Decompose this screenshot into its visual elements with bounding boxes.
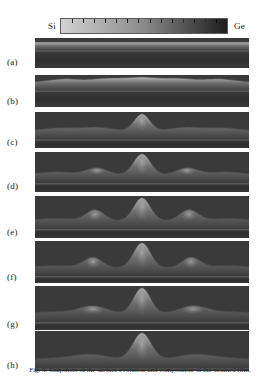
island-core: [179, 168, 195, 175]
film-region: [35, 42, 249, 51]
panel-h: [35, 331, 249, 371]
panel-graphic: [35, 75, 249, 107]
colorbar-track: [60, 18, 228, 34]
panel-graphic: [35, 112, 249, 148]
panel-label-a: (a): [7, 57, 37, 67]
panel-g: [35, 286, 249, 330]
substrate-region: [35, 230, 249, 238]
island-core: [136, 154, 148, 176]
substrate-region: [35, 51, 249, 68]
island-core: [136, 199, 148, 223]
composition-colorbar: Si Ge: [0, 8, 279, 32]
panel-e: [35, 196, 249, 238]
panel-graphic: [35, 241, 249, 283]
island-core: [88, 210, 102, 221]
island-core: [89, 168, 105, 175]
colorbar-label-ge: Ge: [234, 21, 256, 32]
panel-f: [35, 241, 249, 283]
island-core: [86, 258, 100, 269]
colorbar-gradient: [61, 19, 227, 33]
panel-a: [35, 38, 249, 68]
panel-graphic: [35, 331, 249, 371]
island-core: [83, 306, 104, 314]
panel-label-f: (f): [7, 272, 37, 282]
substrate-region: [35, 140, 249, 148]
island-core: [136, 115, 147, 133]
substrate-region: [35, 323, 249, 330]
panel-label-d: (d): [7, 181, 37, 191]
panel-graphic: [35, 152, 249, 192]
panel-graphic: [35, 38, 249, 68]
panel-c: [35, 112, 249, 148]
island-core: [136, 289, 148, 316]
colorbar-label-si: Si: [38, 21, 56, 32]
island-core: [136, 244, 148, 270]
figure-caption: Fig. 5. Snapshots of the surface evoluti…: [24, 366, 256, 375]
substrate-region: [35, 184, 249, 192]
panel-label-b: (b): [7, 96, 37, 106]
panel-d: [35, 152, 249, 192]
island-core: [135, 334, 149, 362]
panel-label-e: (e): [7, 227, 37, 237]
substrate-region: [35, 277, 249, 283]
panel-b: [35, 75, 249, 107]
island-core: [183, 306, 204, 314]
panel-label-g: (g): [7, 319, 37, 329]
island-core: [184, 258, 198, 269]
island-core: [182, 210, 196, 221]
panel-graphic: [35, 286, 249, 330]
substrate-region: [35, 91, 249, 107]
panel-label-c: (c): [7, 137, 37, 147]
figure-root: Si Ge (a)(b)(c)(d)(e)(f)(g)(h) Fig. 5. S…: [0, 0, 279, 378]
panel-graphic: [35, 196, 249, 238]
